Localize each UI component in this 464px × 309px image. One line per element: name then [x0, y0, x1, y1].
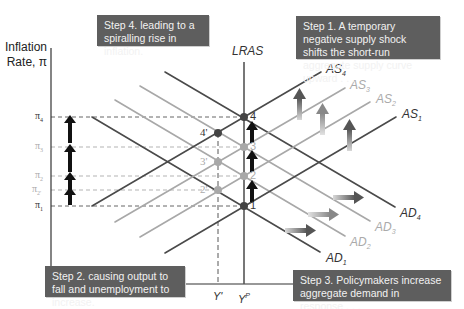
ad2-label: AD2: [350, 236, 371, 253]
step-1-box: Step 1. A temporary negative supply shoc…: [296, 16, 440, 59]
point-1-dot: [240, 202, 248, 210]
tick-y-prime: Y': [213, 290, 222, 302]
ad3-label: AD3: [375, 221, 396, 238]
y-axis-title: Inflation Rate, π: [3, 40, 47, 70]
point-2-label: 2: [250, 170, 256, 181]
point-4p-label: 4': [200, 127, 207, 138]
lras-inflation-arrows: [246, 121, 258, 202]
y-axis-title-line1: Inflation: [3, 40, 47, 55]
axis-inflation-arrows: [64, 115, 76, 205]
as3-curve: [115, 88, 345, 222]
point-1-label: 1: [250, 200, 256, 211]
point-3p-dot: [214, 158, 222, 166]
as2-label: AS2: [376, 93, 396, 110]
y-axis-title-line2: Rate, π: [3, 55, 47, 70]
step-3-box: Step 3. Policymakers increase aggregate …: [293, 270, 451, 301]
point-4-label: 4: [250, 111, 256, 122]
as-shift-arrow-2: [316, 103, 329, 135]
ad-shift-arrow-1: [285, 224, 316, 237]
point-2p-dot: [214, 186, 222, 194]
point-4p-dot: [214, 129, 222, 137]
point-3-label: 3: [250, 141, 256, 152]
tick-pi4: π4: [35, 111, 43, 125]
point-3-dot: [240, 143, 248, 151]
tick-pi3: π3: [35, 141, 43, 155]
as-shift-arrow-3: [293, 88, 306, 120]
tick-pi1: π1: [35, 200, 43, 214]
ad-shift-arrows: [285, 191, 364, 237]
step-4-box: Step 4. leading to a spiralling rise in …: [97, 15, 209, 46]
lras-label: LRAS: [232, 45, 263, 57]
point-4-dot: [240, 113, 248, 121]
as1-label: AS1: [402, 108, 422, 125]
point-2p-label: 2': [200, 184, 207, 195]
step-2-box: Step 2. causing output to fall and unemp…: [45, 266, 185, 297]
equilibrium-points: [214, 113, 248, 210]
point-3p-label: 3': [200, 156, 207, 167]
tick-pi2-prime: π2': [32, 184, 41, 198]
tick-pi2: π2: [35, 170, 43, 184]
point-2-dot: [240, 172, 248, 180]
ad1-label: AD1: [326, 252, 347, 269]
tick-yp: YP: [238, 290, 250, 305]
ad4-label: AD4: [400, 207, 421, 224]
ad-shift-arrow-2: [308, 208, 339, 221]
inflation-guides: [51, 117, 244, 284]
